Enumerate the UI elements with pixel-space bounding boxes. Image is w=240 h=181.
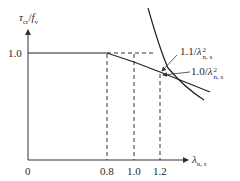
curve-label-1.1: 1.1/λ2n, s (180, 46, 212, 61)
y-axis-label: τcr/fv (19, 12, 38, 26)
x-axis-label: λn, s (192, 154, 207, 168)
curve-label-1.0: 1.0/λ2n, s (191, 66, 223, 81)
arrow-label-1.0 (163, 72, 190, 75)
x-tick-0.8: 0.8 (100, 166, 114, 177)
x-tick-1.2: 1.2 (153, 166, 167, 177)
x-tick-0: 0 (25, 166, 31, 177)
x-tick-1.0: 1.0 (127, 166, 141, 177)
y-tick-1.0: 1.0 (8, 48, 22, 59)
